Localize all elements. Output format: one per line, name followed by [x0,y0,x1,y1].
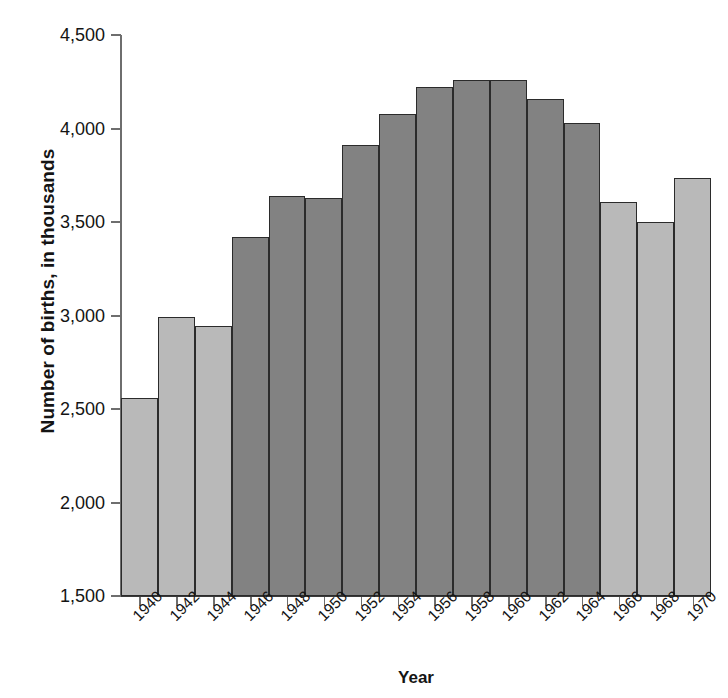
plot-area [121,35,711,596]
bar [379,114,416,596]
x-axis-title: Year [121,668,711,688]
bar [416,87,453,596]
bar [637,222,674,596]
bar [564,123,601,596]
y-tick-label: 1,500 [15,586,105,607]
bar [305,198,342,596]
y-tick-mark [111,502,121,504]
y-tick-mark [111,595,121,597]
bar [121,398,158,596]
bar [527,99,564,596]
y-tick-label: 2,500 [15,399,105,420]
y-tick-label: 4,000 [15,118,105,139]
bar [453,80,490,596]
bar [158,317,195,596]
bar [269,196,306,596]
y-tick-label: 3,500 [15,212,105,233]
y-tick-label: 4,500 [15,25,105,46]
y-tick-mark [111,128,121,130]
y-axis-tick-labels: 1,5002,0002,5003,0003,5004,0004,500 [0,0,105,698]
bar [232,237,269,596]
bar [600,202,637,596]
birth-rate-bar-chart: Number of births, in thousands 1,5002,00… [0,0,728,698]
y-tick-label: 2,000 [15,492,105,513]
bar [490,80,527,596]
bar [195,326,232,596]
y-tick-label: 3,000 [15,305,105,326]
bar [674,178,711,596]
y-tick-mark [111,315,121,317]
y-tick-mark [111,408,121,410]
y-tick-mark [111,34,121,36]
y-tick-mark [111,221,121,223]
bar [342,145,379,596]
